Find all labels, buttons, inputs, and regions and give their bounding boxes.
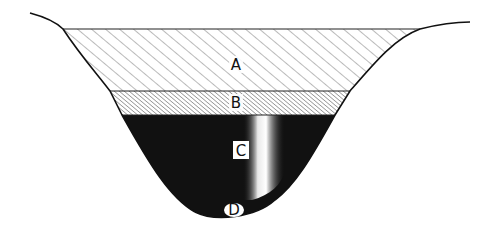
label-c: C (233, 141, 249, 160)
svg-text:A: A (231, 56, 242, 74)
label-b: B (229, 94, 243, 112)
svg-text:D: D (228, 201, 240, 219)
svg-text:B: B (231, 94, 241, 112)
basin-cross-section-diagram: A B C D (0, 0, 490, 230)
label-a: A (229, 56, 243, 74)
svg-text:C: C (236, 142, 246, 160)
